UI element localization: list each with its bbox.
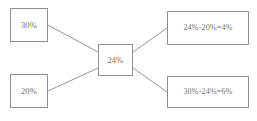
node-bottom-left-label: 20% — [21, 87, 37, 96]
node-top-right-label: 24%-20%=4% — [183, 24, 232, 32]
node-result-lower: 30%-24%=6% — [167, 76, 249, 108]
node-input-30-percent: 30% — [10, 8, 48, 42]
node-top-left-label: 30% — [21, 21, 37, 30]
edge-center-to-top-right — [133, 28, 167, 52]
edge-bottom-left-to-center — [48, 68, 98, 91]
edge-top-left-to-center — [48, 25, 98, 52]
node-center-24-percent: 24% — [98, 44, 133, 76]
node-center-label: 24% — [107, 56, 123, 65]
node-result-upper: 24%-20%=4% — [167, 11, 249, 45]
diagram-canvas: 30% 20% 24% 24%-20%=4% 30%-24%=6% — [0, 0, 257, 121]
node-input-20-percent: 20% — [10, 74, 48, 108]
node-bottom-right-label: 30%-24%=6% — [183, 88, 232, 96]
edge-center-to-bottom-right — [133, 68, 167, 92]
